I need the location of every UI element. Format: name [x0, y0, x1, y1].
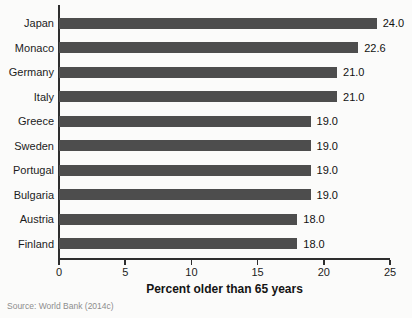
x-tick-label-5: 5	[112, 266, 138, 279]
x-tick-mark-5	[124, 260, 126, 265]
category-label-italy: Italy	[0, 90, 54, 104]
bar-italy	[59, 91, 337, 102]
x-tick-mark-0	[58, 260, 60, 265]
x-tick-label-20: 20	[311, 266, 337, 279]
bar-finland	[59, 238, 297, 249]
x-axis-title: Percent older than 65 years	[59, 282, 390, 296]
x-tick-mark-15	[257, 260, 259, 265]
x-axis-line	[58, 258, 390, 260]
x-tick-mark-25	[389, 260, 391, 265]
category-label-greece: Greece	[0, 114, 54, 128]
bar-sweden	[59, 140, 311, 151]
bar-austria	[59, 214, 297, 225]
category-label-finland: Finland	[0, 237, 54, 251]
category-label-germany: Germany	[0, 65, 54, 79]
bar-chart: Percent older than 65 years Source: Worl…	[0, 0, 412, 318]
category-label-japan: Japan	[0, 16, 54, 30]
value-label-monaco: 22.6	[364, 41, 385, 55]
source-note: Source: World Bank (2014c)	[7, 301, 114, 311]
category-label-bulgaria: Bulgaria	[0, 188, 54, 202]
category-label-portugal: Portugal	[0, 163, 54, 177]
x-tick-label-15: 15	[245, 266, 271, 279]
category-label-austria: Austria	[0, 212, 54, 226]
value-label-italy: 21.0	[343, 90, 364, 104]
value-label-germany: 21.0	[343, 65, 364, 79]
bar-bulgaria	[59, 189, 311, 200]
x-tick-mark-20	[323, 260, 325, 265]
x-tick-label-10: 10	[178, 266, 204, 279]
x-tick-label-25: 25	[377, 266, 403, 279]
value-label-sweden: 19.0	[317, 139, 338, 153]
x-tick-mark-10	[191, 260, 193, 265]
category-label-sweden: Sweden	[0, 139, 54, 153]
value-label-portugal: 19.0	[317, 163, 338, 177]
bar-portugal	[59, 165, 311, 176]
value-label-finland: 18.0	[303, 237, 324, 251]
bar-monaco	[59, 42, 358, 53]
bar-germany	[59, 67, 337, 78]
value-label-austria: 18.0	[303, 212, 324, 226]
x-tick-label-0: 0	[46, 266, 72, 279]
bar-japan	[59, 18, 377, 29]
value-label-greece: 19.0	[317, 114, 338, 128]
category-label-monaco: Monaco	[0, 41, 54, 55]
value-label-bulgaria: 19.0	[317, 188, 338, 202]
value-label-japan: 24.0	[383, 16, 404, 30]
bar-greece	[59, 116, 311, 127]
